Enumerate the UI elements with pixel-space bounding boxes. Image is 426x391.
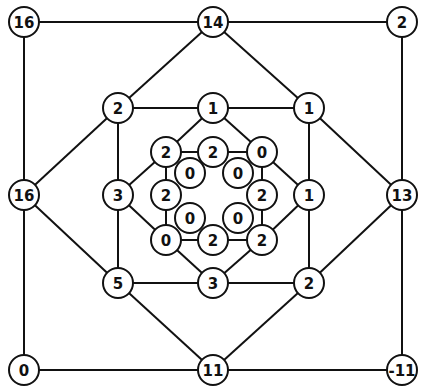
- edge-o_bm-m_br: [213, 283, 309, 370]
- node-label: 2: [161, 187, 171, 205]
- node-c_br: 0: [223, 203, 253, 233]
- node-o_bl: 0: [9, 355, 39, 385]
- node-o_tl: 16: [9, 7, 39, 37]
- node-label: 0: [233, 165, 243, 183]
- node-label: 16: [14, 187, 35, 205]
- node-i_br: 2: [247, 225, 277, 255]
- node-m_bm: 3: [198, 268, 228, 298]
- node-label: 2: [208, 232, 218, 250]
- node-i_mr: 2: [247, 180, 277, 210]
- node-i_tm: 2: [198, 137, 228, 167]
- node-label: 0: [233, 210, 243, 228]
- node-o_mr: 13: [387, 180, 417, 210]
- edge-m_tl-o_ml: [24, 108, 118, 195]
- node-label: 2: [397, 14, 407, 32]
- node-m_tr: 1: [294, 93, 324, 123]
- edge-m_br-o_mr: [309, 195, 402, 283]
- node-m_tl: 2: [103, 93, 133, 123]
- node-label: 3: [113, 187, 123, 205]
- node-i_bm: 2: [198, 225, 228, 255]
- node-label: 0: [19, 362, 29, 380]
- node-label: 2: [113, 100, 123, 118]
- node-label: -11: [388, 362, 415, 380]
- node-label: 0: [185, 165, 195, 183]
- node-label: 2: [257, 232, 267, 250]
- node-label: 0: [257, 144, 267, 162]
- edge-o_mr-m_tr: [309, 108, 402, 195]
- node-m_ml: 3: [103, 180, 133, 210]
- edge-o_tm-m_tl: [118, 22, 213, 108]
- node-i_tl: 2: [151, 137, 181, 167]
- nodes-layer: 161421613011-1121131532220220220000: [9, 7, 417, 385]
- node-label: 0: [161, 232, 171, 250]
- node-m_mr: 1: [294, 180, 324, 210]
- node-label: 5: [113, 275, 123, 293]
- node-c_bl: 0: [175, 203, 205, 233]
- node-i_tr: 0: [247, 137, 277, 167]
- node-i_bl: 0: [151, 225, 181, 255]
- graph-diagram: 161421613011-1121131532220220220000: [0, 0, 426, 391]
- node-label: 11: [203, 362, 224, 380]
- node-label: 2: [257, 187, 267, 205]
- node-c_tr: 0: [223, 158, 253, 188]
- node-o_br: -11: [387, 355, 417, 385]
- node-label: 2: [208, 144, 218, 162]
- node-label: 3: [208, 275, 218, 293]
- node-label: 1: [208, 100, 218, 118]
- node-label: 2: [304, 275, 314, 293]
- node-m_tm: 1: [198, 93, 228, 123]
- node-i_ml: 2: [151, 180, 181, 210]
- edge-m_bl-o_bm: [118, 283, 213, 370]
- node-o_tr: 2: [387, 7, 417, 37]
- node-label: 16: [14, 14, 35, 32]
- node-m_bl: 5: [103, 268, 133, 298]
- edges-layer: [24, 22, 402, 370]
- node-label: 1: [304, 187, 314, 205]
- edge-m_tr-o_tm: [213, 22, 309, 108]
- node-label: 1: [304, 100, 314, 118]
- node-label: 2: [161, 144, 171, 162]
- node-label: 14: [203, 14, 224, 32]
- node-label: 13: [392, 187, 413, 205]
- node-label: 0: [185, 210, 195, 228]
- edge-o_ml-m_bl: [24, 195, 118, 283]
- node-o_tm: 14: [198, 7, 228, 37]
- node-m_br: 2: [294, 268, 324, 298]
- node-c_tl: 0: [175, 158, 205, 188]
- node-o_bm: 11: [198, 355, 228, 385]
- node-o_ml: 16: [9, 180, 39, 210]
